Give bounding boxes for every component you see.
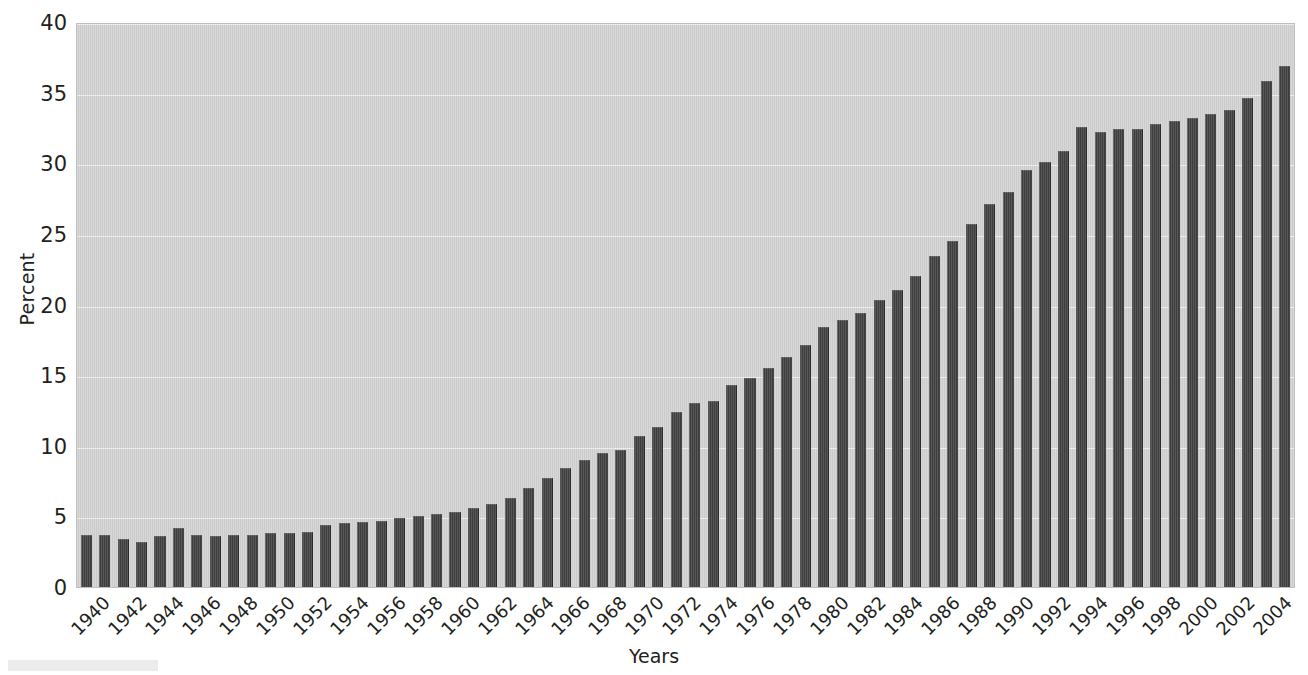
bar[interactable] (855, 313, 866, 587)
bar[interactable] (357, 522, 368, 587)
bar[interactable] (837, 320, 848, 587)
bar[interactable] (81, 535, 92, 587)
bar[interactable] (265, 533, 276, 587)
y-axis-tick-label: 40 (40, 11, 67, 35)
bar-slot (612, 24, 630, 587)
x-axis-tick-label: 1956 (362, 592, 409, 639)
bar[interactable] (1021, 170, 1032, 587)
x-axis-tick-label: 1958 (399, 592, 446, 639)
bar[interactable] (763, 368, 774, 587)
bar[interactable] (191, 535, 202, 587)
bar-slot (335, 24, 353, 587)
bar-slot (464, 24, 482, 587)
bar[interactable] (634, 436, 645, 587)
bar[interactable] (984, 204, 995, 587)
bar-slot (722, 24, 740, 587)
bar-slot (888, 24, 906, 587)
bar[interactable] (542, 478, 553, 587)
bar-slot (243, 24, 261, 587)
bar[interactable] (615, 450, 626, 587)
bar[interactable] (1187, 118, 1198, 587)
bar-slot (1054, 24, 1072, 587)
bar[interactable] (744, 378, 755, 587)
bar-series (77, 24, 1294, 587)
bar-slot (409, 24, 427, 587)
bar[interactable] (1076, 127, 1087, 587)
bar[interactable] (597, 453, 608, 587)
bar-slot (280, 24, 298, 587)
bar[interactable] (173, 528, 184, 587)
bar[interactable] (1205, 114, 1216, 587)
bar[interactable] (1242, 98, 1253, 587)
bar[interactable] (579, 460, 590, 587)
bar-slot (796, 24, 814, 587)
x-axis-tick-label: 1968 (584, 592, 631, 639)
bar[interactable] (486, 504, 497, 587)
bar[interactable] (1058, 151, 1069, 587)
bar[interactable] (376, 521, 387, 587)
bar[interactable] (449, 512, 460, 587)
bar-slot (188, 24, 206, 587)
bar[interactable] (874, 300, 885, 587)
bar[interactable] (947, 241, 958, 587)
bar[interactable] (800, 345, 811, 587)
bar[interactable] (1169, 121, 1180, 587)
bar-slot (1146, 24, 1164, 587)
bar[interactable] (1224, 110, 1235, 587)
bar[interactable] (523, 488, 534, 587)
bar[interactable] (210, 536, 221, 587)
bar[interactable] (154, 536, 165, 587)
bar[interactable] (339, 523, 350, 587)
bar[interactable] (118, 539, 129, 587)
bar-slot (169, 24, 187, 587)
y-axis-tick-label: 25 (40, 223, 67, 247)
bar[interactable] (431, 514, 442, 587)
bar[interactable] (1039, 162, 1050, 587)
bar-slot (1239, 24, 1257, 587)
bar[interactable] (413, 516, 424, 587)
bar[interactable] (892, 290, 903, 587)
bar[interactable] (1095, 132, 1106, 587)
bar[interactable] (652, 427, 663, 587)
bar[interactable] (247, 535, 258, 587)
bar-slot (446, 24, 464, 587)
bar-slot (261, 24, 279, 587)
bar[interactable] (671, 412, 682, 587)
bar-slot (944, 24, 962, 587)
bar[interactable] (1279, 66, 1290, 587)
x-axis-tick-label: 1948 (215, 592, 262, 639)
bar[interactable] (468, 508, 479, 587)
bar[interactable] (929, 256, 940, 587)
bar[interactable] (708, 401, 719, 587)
y-axis-tick-label: 5 (54, 505, 67, 529)
bar[interactable] (505, 498, 516, 587)
bar[interactable] (689, 403, 700, 587)
bar[interactable] (284, 533, 295, 587)
bar[interactable] (910, 276, 921, 587)
bar[interactable] (320, 525, 331, 587)
bar-slot (1165, 24, 1183, 587)
bar[interactable] (560, 468, 571, 587)
bar[interactable] (1261, 81, 1272, 587)
bar-chart: Percent 0510152025303540 194019421944194… (0, 0, 1308, 675)
bar[interactable] (1113, 129, 1124, 587)
x-axis-tick-label: 1954 (325, 592, 372, 639)
bar[interactable] (394, 518, 405, 587)
bar[interactable] (99, 535, 110, 587)
bar[interactable] (781, 357, 792, 587)
bar[interactable] (228, 535, 239, 587)
bar[interactable] (1132, 129, 1143, 587)
bar[interactable] (966, 224, 977, 587)
bar[interactable] (136, 542, 147, 587)
bar[interactable] (818, 327, 829, 587)
bar-slot (1257, 24, 1275, 587)
bar[interactable] (1150, 124, 1161, 587)
bar-slot (1073, 24, 1091, 587)
x-axis-tick-label: 1970 (621, 592, 668, 639)
x-axis-tick-label: 1942 (104, 592, 151, 639)
bar[interactable] (1003, 192, 1014, 588)
bar[interactable] (726, 385, 737, 587)
y-axis-tick-label: 35 (40, 82, 67, 106)
bar[interactable] (302, 532, 313, 587)
bar-slot (298, 24, 316, 587)
